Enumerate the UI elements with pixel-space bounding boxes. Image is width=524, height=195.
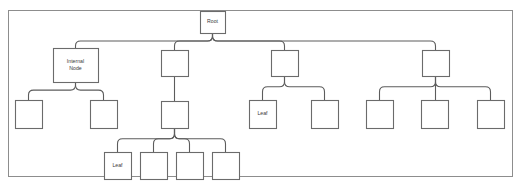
- tree-edge: [285, 76, 325, 100]
- diagram-frame: [9, 11, 513, 177]
- tree-edge: [175, 128, 190, 152]
- tree-node[interactable]: [312, 101, 339, 129]
- nodes-layer: RootInternalNodeLeafLeaf: [16, 12, 505, 180]
- node-box: [478, 101, 505, 129]
- tree-node[interactable]: [213, 153, 240, 180]
- node-label: Internal: [67, 58, 84, 64]
- tree-node-root[interactable]: Root: [201, 12, 226, 34]
- node-label: Root: [207, 18, 219, 24]
- tree-edge: [154, 128, 175, 152]
- tree-node[interactable]: [478, 101, 505, 129]
- node-label: Leaf: [112, 162, 123, 168]
- tree-node[interactable]: [422, 101, 449, 129]
- node-label: Node: [69, 65, 82, 71]
- tree-edge: [76, 82, 104, 100]
- tree-edge: [213, 33, 436, 50]
- node-box: [422, 101, 449, 129]
- tree-node[interactable]: [141, 153, 168, 180]
- tree-node[interactable]: [162, 102, 189, 129]
- node-box: [272, 51, 299, 77]
- node-box: [423, 51, 450, 77]
- tree-node-leaf[interactable]: Leaf: [105, 153, 132, 180]
- node-box: [213, 153, 240, 180]
- node-box: [91, 101, 118, 129]
- node-box: [177, 153, 204, 180]
- node-box: [367, 101, 394, 129]
- tree-node[interactable]: [91, 101, 118, 129]
- tree-edge: [263, 76, 285, 100]
- tree-edge: [118, 128, 175, 152]
- tree-node[interactable]: [162, 51, 189, 77]
- tree-diagram: RootInternalNodeLeafLeaf: [0, 0, 524, 195]
- node-box: [16, 101, 43, 129]
- node-label: Leaf: [257, 110, 268, 116]
- tree-node[interactable]: [423, 51, 450, 77]
- tree-edge: [29, 82, 76, 100]
- tree-edge: [436, 76, 491, 100]
- node-box: [312, 101, 339, 129]
- node-box: [162, 102, 189, 129]
- tree-node-internal-node[interactable]: InternalNode: [54, 49, 99, 83]
- diagram-canvas: RootInternalNodeLeafLeaf: [0, 0, 524, 195]
- tree-node[interactable]: [272, 51, 299, 77]
- tree-node-leaf[interactable]: Leaf: [250, 101, 277, 129]
- tree-edge: [380, 76, 436, 100]
- tree-edge: [175, 128, 226, 152]
- tree-node[interactable]: [16, 101, 43, 129]
- node-box: [162, 51, 189, 77]
- tree-edge: [175, 33, 213, 50]
- tree-node[interactable]: [177, 153, 204, 180]
- node-box: [141, 153, 168, 180]
- tree-node[interactable]: [367, 101, 394, 129]
